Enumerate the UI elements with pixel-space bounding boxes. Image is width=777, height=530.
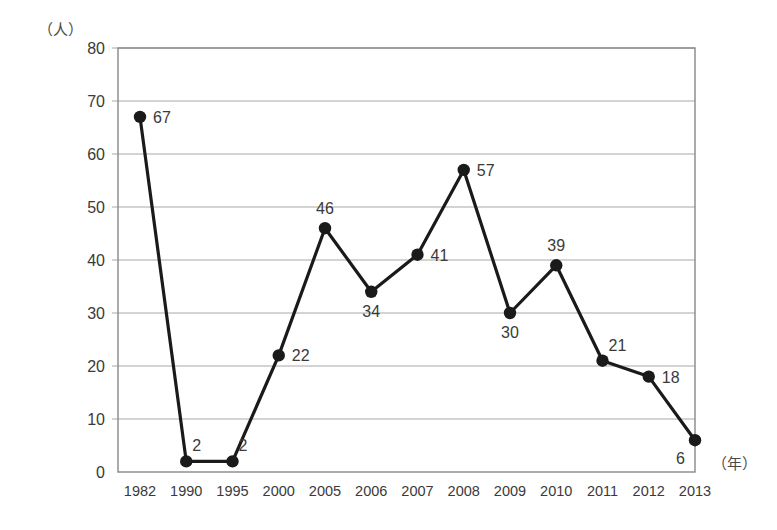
data-point-label: 22 [292,347,310,364]
data-point [411,249,423,261]
data-point [180,455,192,467]
y-tick-label: 70 [87,93,105,110]
data-point [504,307,516,319]
data-point [643,370,655,382]
x-tick-label: 2000 [263,483,295,499]
data-point-label: 57 [477,162,495,179]
series-line [140,117,695,462]
data-point-label: 46 [316,200,334,217]
data-point [134,111,146,123]
data-line [140,117,695,462]
data-point-label: 30 [501,324,519,341]
data-point-label: 6 [676,450,685,467]
data-point [365,286,377,298]
x-tick-label: 1990 [170,483,202,499]
data-point-label: 67 [153,109,171,126]
x-tick-label: 2005 [309,483,341,499]
data-point-label: 41 [431,247,449,264]
data-point [689,434,701,446]
y-tick-label: 50 [87,199,105,216]
y-tick-label: 10 [87,411,105,428]
data-point [319,222,331,234]
x-tick-label: 2009 [494,483,526,499]
data-point [273,349,285,361]
x-tick-label: 2006 [355,483,387,499]
x-tick-label: 2011 [587,483,618,499]
data-point-label: 2 [192,437,201,454]
y-tick-label: 20 [87,358,105,375]
y-tick-label: 80 [87,40,105,57]
x-axis-tick-labels: 1982199019952000200520062007200820092010… [124,483,711,499]
y-tick-label: 40 [87,252,105,269]
y-tick-label: 0 [96,464,105,481]
data-point-label: 2 [239,437,248,454]
data-point [226,455,238,467]
x-tick-label: 2012 [633,483,665,499]
data-point-label: 21 [609,337,627,354]
x-tick-label: 2010 [540,483,572,499]
line-chart: （人） （年） 01020304050607080 19821990199520… [0,0,777,530]
x-tick-label: 2008 [448,483,480,499]
x-tick-label: 2013 [679,483,711,499]
chart-canvas: 01020304050607080 1982199019952000200520… [0,0,777,530]
data-point-label: 34 [362,303,380,320]
x-tick-label: 1995 [216,483,248,499]
y-tick-label: 30 [87,305,105,322]
y-axis-tick-labels: 01020304050607080 [87,40,105,481]
y-tick-label: 60 [87,146,105,163]
data-point-label: 39 [547,237,565,254]
data-point [596,355,608,367]
data-point [550,259,562,271]
x-tick-label: 1982 [124,483,156,499]
data-point [458,164,470,176]
data-point-markers [134,111,701,468]
data-point-labels: 67222246344157303921186 [153,109,685,467]
data-point-label: 18 [662,369,680,386]
x-tick-label: 2007 [401,483,433,499]
